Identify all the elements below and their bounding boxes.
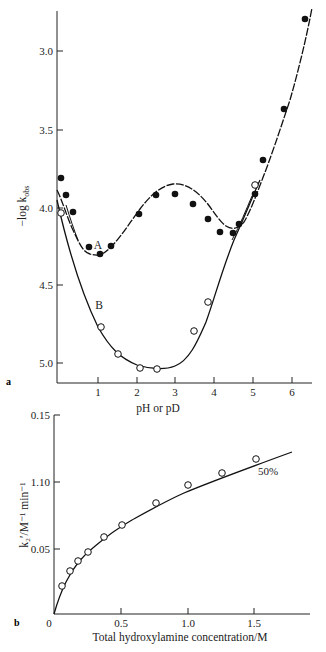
curve-b — [57, 180, 260, 369]
x-tick-label: 2 — [134, 386, 140, 398]
x-tick-label: 0 — [46, 617, 52, 629]
y-axis-label-a: −log kobs — [16, 186, 31, 227]
x-tick-label: 6 — [289, 386, 295, 398]
x-tick-label: 1.0 — [181, 617, 195, 629]
figure: 3.0 3.5 4.0 4.5 5.0 1 2 3 4 5 6 pH or pD… — [0, 0, 326, 652]
panel-label-a: a — [6, 376, 11, 387]
x-axis-label-b: Total hydroxylamine concentration/M — [93, 631, 268, 644]
panel-label-b: b — [14, 617, 20, 628]
y-axis-label-b: k₂′/M⁻¹ min⁻¹ — [18, 482, 30, 548]
curve-label-b: B — [95, 299, 103, 311]
y-tick-label: 1.10 — [31, 476, 51, 488]
x-axis-label-a: pH or pD — [136, 402, 179, 415]
x-tick-label: 5 — [250, 386, 256, 398]
y-ticks-b — [54, 415, 60, 549]
svg-text:−log kobs: −log kobs — [16, 186, 31, 227]
x-ticks-b — [121, 608, 254, 614]
x-ticks-a — [98, 377, 292, 383]
curve-label-a: A — [94, 239, 103, 251]
y-tick-label: 4.5 — [39, 279, 53, 291]
panel-b: 0.15 1.10 0.05 0 0.5 1.0 1.5 Total hydro… — [14, 409, 310, 644]
y-tick-label: 0.15 — [31, 409, 51, 421]
x-tick-label: 3 — [172, 386, 178, 398]
y-tick-label: 0.05 — [31, 543, 51, 555]
series-b-points — [58, 182, 259, 373]
y-tick-label: 5.0 — [39, 357, 53, 369]
annotation-50-percent: 50% — [258, 465, 278, 477]
panel-a: 3.0 3.5 4.0 4.5 5.0 1 2 3 4 5 6 pH or pD… — [6, 8, 312, 415]
y-tick-label: 4.0 — [39, 202, 53, 214]
x-tick-label: 0.5 — [114, 617, 128, 629]
x-tick-label: 1.5 — [247, 617, 261, 629]
x-tick-label: 4 — [211, 386, 217, 398]
fit-curve-b — [54, 452, 292, 614]
y-ticks-a — [57, 51, 63, 363]
series-a-points — [58, 16, 309, 258]
curve-a — [57, 8, 312, 255]
y-tick-label: 3.0 — [39, 45, 53, 57]
y-tick-label: 3.5 — [39, 124, 53, 136]
x-tick-label: 1 — [95, 386, 101, 398]
